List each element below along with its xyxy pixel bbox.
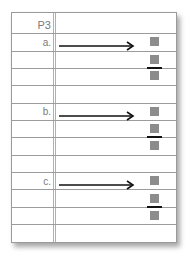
rule-line [12,85,176,86]
denominator-box[interactable] [150,124,159,133]
denominator-box[interactable] [150,194,159,203]
right-arrow-icon [59,41,136,51]
answer-box[interactable] [150,71,159,80]
right-arrow-icon [59,180,136,190]
fraction-bar [147,67,162,69]
worksheet-page: P3 a. b. c. [11,12,177,243]
numerator-box[interactable] [150,107,159,116]
rule-line [12,172,176,173]
answer-box[interactable] [150,211,159,220]
rule-line [12,155,176,156]
item-label-a: a. [43,37,51,49]
rule-line [12,51,176,52]
numerator-box[interactable] [150,176,159,185]
rule-line [12,224,176,225]
item-label-c: c. [43,176,51,188]
numerator-box[interactable] [150,37,159,46]
page-title: P3 [38,19,51,31]
right-arrow-icon [59,111,136,121]
answer-box[interactable] [150,141,159,150]
denominator-box[interactable] [150,55,159,64]
fraction-bar [147,206,162,208]
item-label-b: b. [43,106,51,118]
rule-line [12,103,176,104]
fraction-bar [147,136,162,138]
rule-line [12,33,176,34]
